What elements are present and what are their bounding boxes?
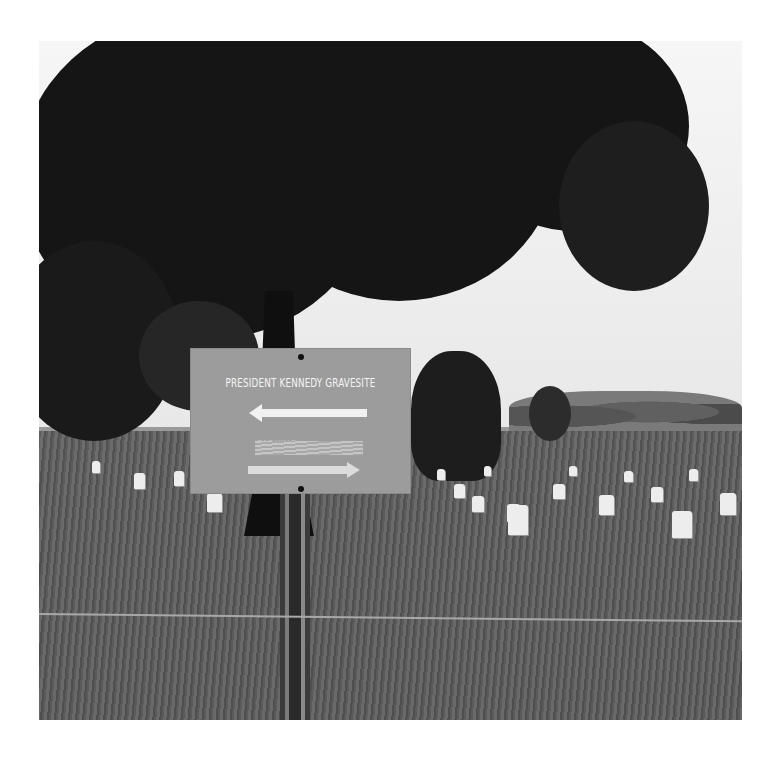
- sign-destination-label: PRESIDENT KENNEDY GRAVESITE: [207, 376, 393, 390]
- arrow-right-icon: [248, 466, 348, 474]
- mounting-hole: [298, 354, 304, 360]
- evergreen-shrub: [411, 351, 501, 481]
- arrow-left-icon: [261, 409, 367, 417]
- cemetery-photograph: PRESIDENT KENNEDY GRAVESITE PARKING: [39, 41, 742, 720]
- directional-sign: PRESIDENT KENNEDY GRAVESITE PARKING: [190, 348, 411, 494]
- mounting-hole: [298, 486, 304, 492]
- small-tree: [529, 386, 571, 441]
- sign-post: [280, 494, 310, 720]
- scratched-out-area: [255, 441, 363, 455]
